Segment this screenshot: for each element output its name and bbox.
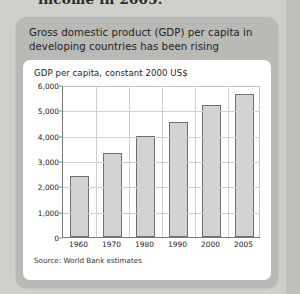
plot-area	[62, 86, 260, 238]
y-axis-tick-label: 4,000	[38, 132, 59, 141]
x-axis-tick-label: 1980	[135, 240, 154, 249]
cut-off-headline-container: income in 2005.	[0, 0, 286, 10]
x-axis-tick-label: 1960	[69, 240, 88, 249]
cut-off-headline: income in 2005.	[38, 0, 163, 7]
chart-source-note: Source: World Bank estimates	[34, 256, 142, 265]
x-axis-tick-label: 1970	[102, 240, 121, 249]
y-axis-title: GDP per capita, constant 2000 US$	[34, 68, 188, 78]
vertical-gridline	[96, 86, 97, 237]
x-axis-ticks: 196019701980199020002005	[62, 240, 260, 252]
chart-card: Gross domestic product (GDP) per capita …	[16, 17, 278, 287]
y-axis-tick-label: 6,000	[38, 82, 59, 91]
bar	[103, 153, 121, 237]
x-axis-tick-label: 2000	[201, 240, 220, 249]
vertical-gridline	[228, 86, 229, 237]
bar	[235, 94, 253, 237]
page-right-edge	[286, 0, 300, 294]
vertical-gridline	[162, 86, 163, 237]
bar	[169, 122, 187, 237]
x-axis-tick-label: 2005	[234, 240, 253, 249]
bar	[202, 105, 220, 237]
y-axis-tick-label: 5,000	[38, 107, 59, 116]
chart-panel: GDP per capita, constant 2000 US$ 01,000…	[23, 60, 271, 280]
y-axis-ticks: 01,0002,0003,0004,0005,0006,000	[34, 86, 62, 238]
vertical-gridline	[195, 86, 196, 237]
plot-wrapper: 01,0002,0003,0004,0005,0006,000 19601970…	[34, 86, 260, 252]
x-axis-tick-label: 1990	[168, 240, 187, 249]
vertical-gridline	[129, 86, 130, 237]
y-axis-tick-label: 2,000	[38, 183, 59, 192]
y-axis-tick-label: 3,000	[38, 158, 59, 167]
chart-card-title: Gross domestic product (GDP) per capita …	[29, 26, 267, 53]
bar	[70, 176, 88, 237]
y-axis-tick-label: 1,000	[38, 208, 59, 217]
